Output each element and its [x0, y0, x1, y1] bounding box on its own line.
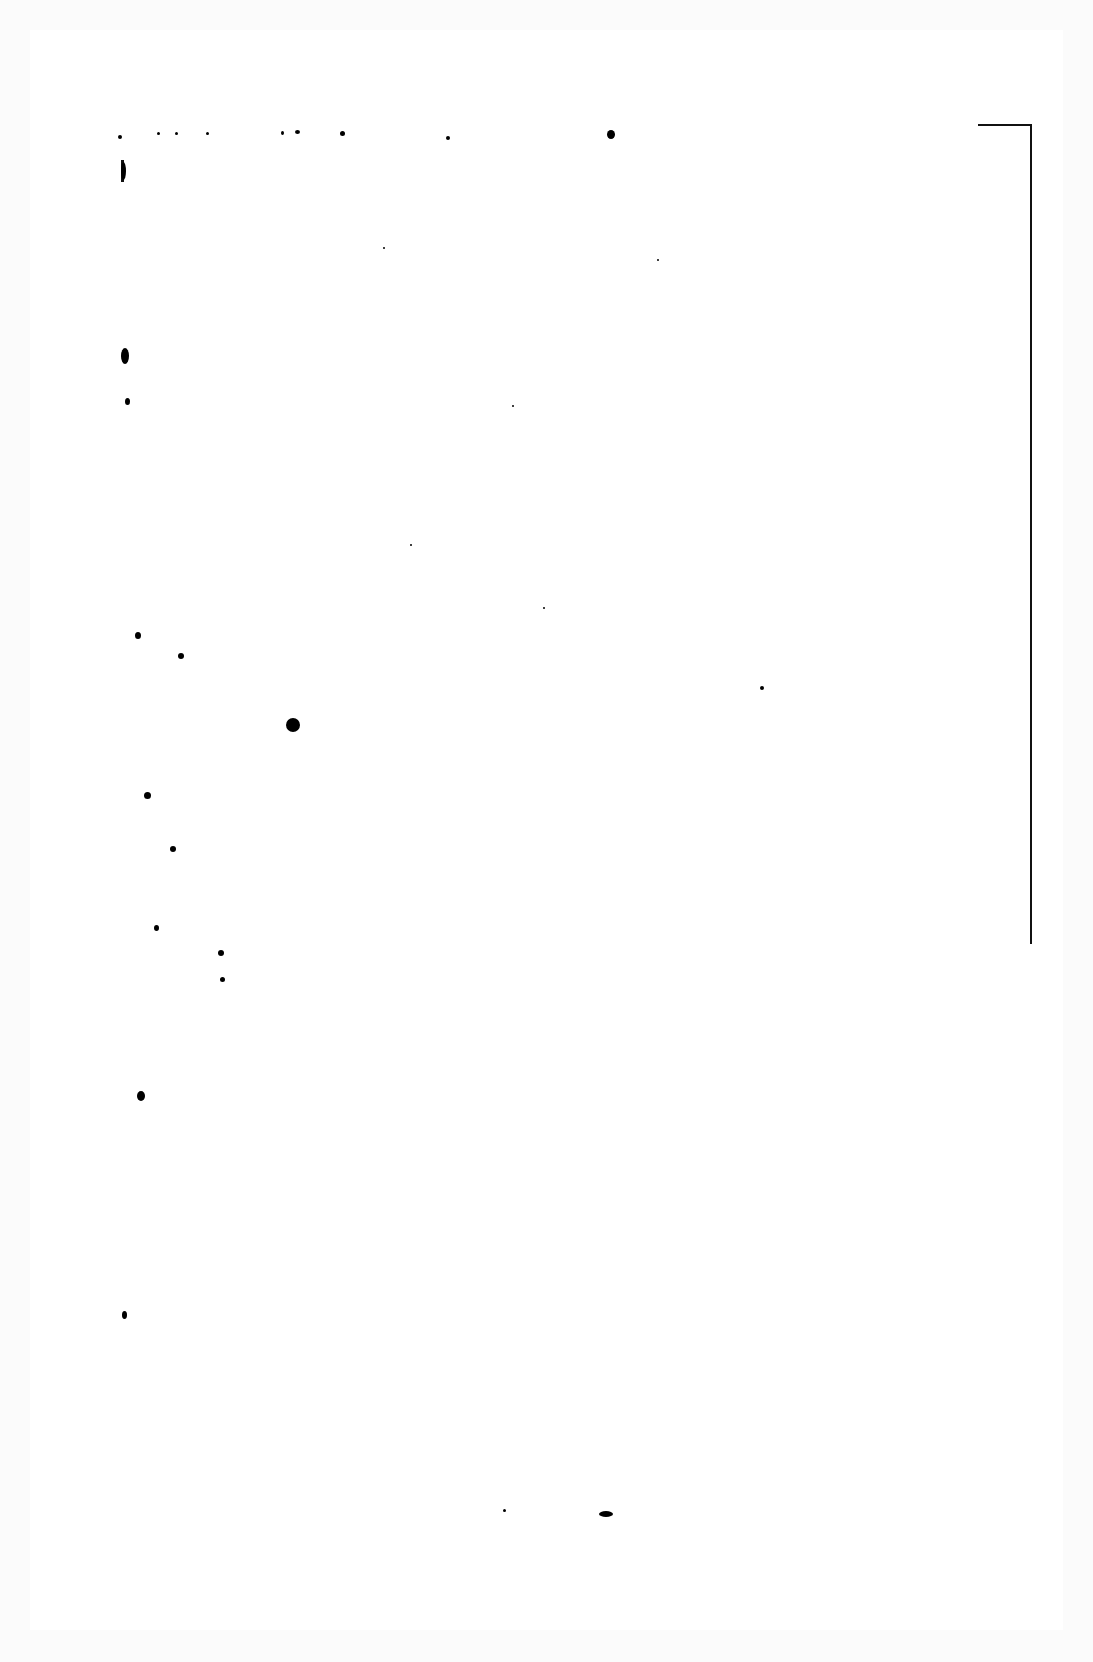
scan-speck — [154, 925, 159, 931]
scanned-page — [0, 0, 1093, 1662]
scan-speck — [657, 259, 659, 261]
scan-speck — [135, 632, 141, 639]
scan-speck — [218, 950, 224, 956]
scan-speck — [340, 131, 345, 136]
scan-speck — [503, 1509, 506, 1512]
scan-speck — [125, 398, 130, 405]
scan-speck — [175, 132, 178, 135]
scan-speck — [118, 135, 122, 139]
scan-speck — [607, 130, 615, 139]
scan-speck — [206, 132, 209, 135]
scan-speck — [157, 132, 160, 135]
top-border-line-right — [978, 124, 1030, 126]
right-border-line — [1030, 124, 1032, 944]
scan-speck — [281, 131, 284, 135]
scan-speck — [446, 136, 450, 140]
scan-speck — [383, 247, 385, 249]
scan-speck — [410, 544, 412, 546]
scan-speck — [122, 1311, 127, 1319]
scan-speck — [144, 792, 151, 799]
scan-speck — [220, 977, 225, 982]
scan-speck — [760, 686, 764, 690]
scan-speck — [599, 1511, 613, 1517]
scan-speck — [543, 607, 545, 609]
scan-speck — [137, 1091, 145, 1101]
blank-page-area — [30, 30, 1063, 1630]
scan-speck — [295, 130, 300, 134]
scan-speck — [286, 718, 300, 732]
scan-speck — [512, 405, 514, 407]
scan-speck — [121, 348, 129, 364]
scan-speck — [121, 162, 126, 180]
scan-speck — [170, 846, 176, 852]
scan-speck — [178, 653, 184, 659]
